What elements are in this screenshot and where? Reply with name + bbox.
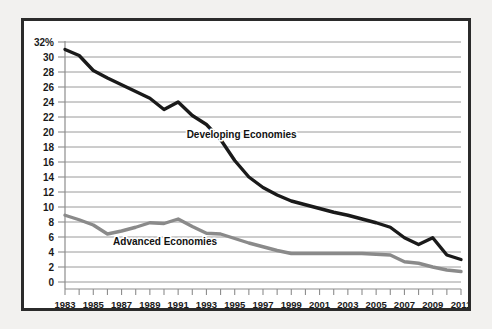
x-axis xyxy=(65,289,461,295)
x-tick-label: 2005 xyxy=(366,299,388,308)
y-axis xyxy=(58,41,65,289)
x-tick-label: 2011 xyxy=(451,299,468,308)
y-tick-label: 18 xyxy=(43,142,55,153)
y-tick-label: 0 xyxy=(48,277,54,288)
series-label-developing-economies: Developing Economies xyxy=(187,129,297,140)
y-tick-label: 28 xyxy=(43,67,55,78)
y-tick-label: 22 xyxy=(43,112,55,123)
x-tick-label: 1987 xyxy=(111,299,132,308)
x-tick-label: 2001 xyxy=(309,299,331,308)
y-tick-label: 24 xyxy=(43,97,55,108)
series-line-developing-economies xyxy=(65,50,461,260)
x-tick-label: 1999 xyxy=(281,299,302,308)
x-tick-label: 1991 xyxy=(168,299,190,308)
x-tick-label: 2003 xyxy=(337,299,358,308)
y-tick-label: 6 xyxy=(48,232,54,243)
chart-frame: 32%302826242220181614121086420 198319851… xyxy=(21,18,471,311)
x-tick-label: 1985 xyxy=(83,299,105,308)
x-axis-tick-labels: 1983198519871989199119931995199719992001… xyxy=(54,299,468,308)
y-tick-label: 32% xyxy=(34,37,54,48)
x-tick-label: 1995 xyxy=(224,299,246,308)
y-axis-tick-labels: 32%302826242220181614121086420 xyxy=(34,37,54,288)
y-tick-label: 30 xyxy=(43,52,55,63)
y-tick-label: 4 xyxy=(48,247,54,258)
series-label-advanced-economies: Advanced Economies xyxy=(113,236,217,247)
y-tick-label: 16 xyxy=(43,157,55,168)
y-tick-label: 10 xyxy=(43,202,55,213)
x-tick-label: 1993 xyxy=(196,299,217,308)
x-tick-label: 2009 xyxy=(422,299,443,308)
y-tick-label: 26 xyxy=(43,82,55,93)
x-tick-label: 1983 xyxy=(54,299,75,308)
x-tick-label: 2007 xyxy=(394,299,415,308)
chart-page: 32%302826242220181614121086420 198319851… xyxy=(0,0,492,329)
y-tick-label: 8 xyxy=(48,217,54,228)
x-tick-label: 1997 xyxy=(252,299,273,308)
y-tick-label: 20 xyxy=(43,127,55,138)
y-tick-label: 2 xyxy=(48,262,54,273)
line-chart: 32%302826242220181614121086420 198319851… xyxy=(24,21,468,308)
y-tick-label: 14 xyxy=(43,172,55,183)
x-tick-label: 1989 xyxy=(139,299,160,308)
y-tick-label: 12 xyxy=(43,187,55,198)
